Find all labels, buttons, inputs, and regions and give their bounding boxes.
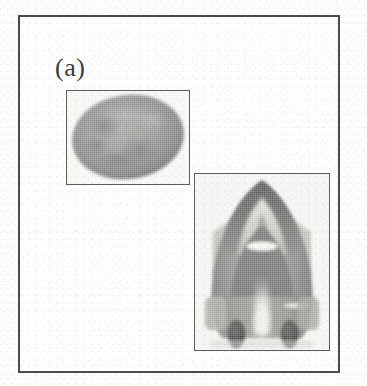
figure-panel: (a) xyxy=(0,0,367,386)
subimage-shaded-render xyxy=(194,173,330,351)
shaded-arch-graphic xyxy=(195,174,329,350)
panel-label: (a) xyxy=(55,55,85,81)
figure-outer-frame: (a) xyxy=(18,15,340,373)
subimage-oval-object xyxy=(66,90,190,185)
oval-object-graphic xyxy=(67,91,189,184)
